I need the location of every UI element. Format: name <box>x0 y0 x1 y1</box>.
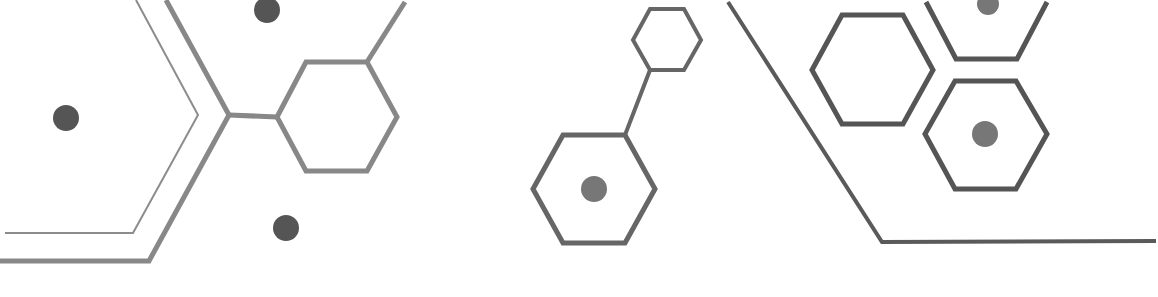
dot-bottom <box>273 215 299 241</box>
decorative-hexagon-graphic <box>0 0 1158 297</box>
hexagon-left-stem <box>367 2 405 62</box>
dot-right-lower <box>972 121 998 147</box>
connector-line <box>229 115 277 117</box>
thin-chevron-line <box>5 0 198 233</box>
hexagon-center-small <box>633 9 701 70</box>
dot-center-hex <box>581 176 607 202</box>
hexagon-left-large <box>277 62 397 171</box>
hexagon-right-upper <box>812 15 933 124</box>
dot-right-top <box>977 0 999 15</box>
thick-chevron-line <box>0 0 229 261</box>
dot-left <box>53 105 79 131</box>
center-connector-line <box>625 70 650 135</box>
right-angled-bracket-line <box>728 2 1156 242</box>
dot-top <box>254 0 280 23</box>
